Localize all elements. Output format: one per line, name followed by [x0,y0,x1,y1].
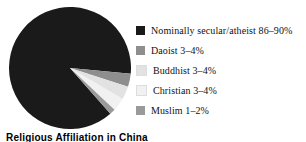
legend-item-label: Christian 3–4% [153,85,217,96]
legend-item-label: Buddhist 3–4% [153,65,216,76]
chart-legend: Nominally secular/atheist 86–90%Daoist 3… [136,20,306,120]
legend-item-label: Nominally secular/atheist 86–90% [151,25,293,36]
legend-item[interactable]: Buddhist 3–4% [136,60,306,80]
pie-svg [8,6,132,130]
legend-item[interactable]: Christian 3–4% [136,80,306,100]
legend-swatch-christian [136,85,147,96]
legend-swatch-muslim [136,106,145,115]
legend-swatch-buddhist [136,65,147,76]
legend-swatch-secular [136,26,145,35]
legend-item-label: Daoist 3–4% [151,45,204,56]
legend-item[interactable]: Muslim 1–2% [136,100,306,120]
legend-item-label: Muslim 1–2% [151,105,209,116]
legend-swatch-daoist [136,46,145,55]
legend-item[interactable]: Nominally secular/atheist 86–90% [136,20,306,40]
figure-caption: Religious Affiliation in China [6,132,148,142]
pie-chart-figure: Nominally secular/atheist 86–90%Daoist 3… [0,0,306,142]
legend-item[interactable]: Daoist 3–4% [136,40,306,60]
pie-chart-graphic [8,6,132,130]
